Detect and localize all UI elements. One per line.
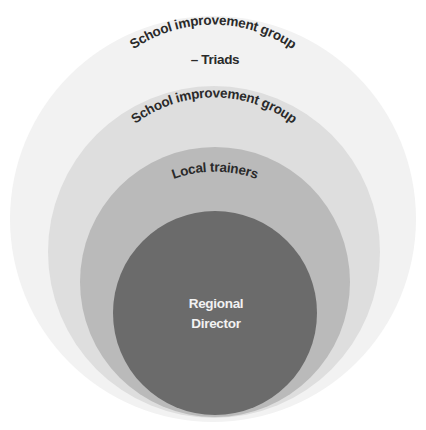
nested-circles-diagram: School improvement group – Triads School… xyxy=(0,0,426,430)
label-triads-line2: – Triads xyxy=(191,52,240,67)
label-regional-director-line1: Regional xyxy=(189,296,244,311)
circle-regional-director xyxy=(113,211,317,415)
label-regional-director-line2: Director xyxy=(191,316,241,331)
